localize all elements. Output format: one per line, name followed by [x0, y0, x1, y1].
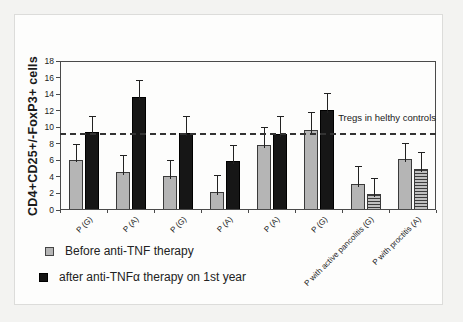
- y-axis-tick-label: 18: [28, 56, 54, 66]
- y-axis-tick-label: 0: [28, 205, 54, 215]
- y-axis-tick-label: 16: [28, 73, 54, 83]
- bar-after: [414, 169, 428, 210]
- y-axis-tick-label: 14: [28, 89, 54, 99]
- x-axis-category-label: P (A): [122, 215, 141, 234]
- reference-line-label: Tregs in helthy controls: [338, 112, 436, 123]
- bar-before: [116, 172, 130, 210]
- y-axis-tick-label: 6: [28, 155, 54, 165]
- x-axis-tick: [342, 210, 343, 213]
- error-bar: [264, 127, 265, 147]
- error-bar-cap: [183, 116, 190, 117]
- y-axis-tick: [56, 193, 60, 194]
- error-bar-cap: [136, 80, 143, 81]
- y-axis-tick: [56, 127, 60, 128]
- y-axis-tick: [56, 160, 60, 161]
- error-bar: [374, 178, 375, 198]
- error-bar: [139, 80, 140, 100]
- error-bar: [327, 93, 328, 113]
- y-axis-tick: [56, 94, 60, 95]
- legend-label-before: Before anti-TNF therapy: [65, 244, 194, 258]
- x-axis-tick: [389, 210, 390, 213]
- error-bar-cap: [89, 116, 96, 117]
- bar-before: [351, 184, 365, 210]
- bar-after: [320, 110, 334, 210]
- bar-before: [398, 159, 412, 210]
- y-axis-tick-label: 8: [28, 139, 54, 149]
- bar-before: [163, 176, 177, 210]
- y-axis-tick-label: 4: [28, 172, 54, 182]
- error-bar: [405, 143, 406, 162]
- x-axis-tick: [295, 210, 296, 213]
- error-bar: [233, 145, 234, 165]
- error-bar-cap: [167, 160, 174, 161]
- bar-after: [132, 97, 146, 210]
- error-bar-cap: [73, 144, 80, 145]
- after-therapy-swatch-icon: [39, 273, 48, 282]
- error-bar: [170, 160, 171, 180]
- bar-after: [226, 161, 240, 210]
- reference-dashed-line: [60, 133, 436, 135]
- y-axis-tick: [56, 61, 60, 62]
- x-axis-tick: [248, 210, 249, 213]
- error-bar-cap: [324, 93, 331, 94]
- x-axis-tick: [107, 210, 108, 213]
- error-bar-cap: [277, 116, 284, 117]
- bar-after: [85, 132, 99, 210]
- y-axis-tick-label: 2: [28, 188, 54, 198]
- error-bar: [76, 144, 77, 163]
- error-bar-cap: [214, 175, 221, 176]
- legend-item-after: after anti-TNFα therapy on 1st year: [39, 270, 246, 284]
- error-bar: [311, 112, 312, 132]
- y-axis-tick: [56, 110, 60, 111]
- error-bar-cap: [355, 166, 362, 167]
- x-axis-tick: [154, 210, 155, 213]
- x-axis-tick: [436, 210, 437, 213]
- bar-chart: CD4+CD25+/-FoxP3+ cells 024681012141618P…: [0, 0, 463, 322]
- bar-before: [257, 145, 271, 210]
- x-axis-tick: [201, 210, 202, 213]
- bar-after: [273, 134, 287, 210]
- error-bar-cap: [402, 143, 409, 144]
- x-axis-category-label: P (A): [216, 215, 235, 234]
- legend-label-after: after anti-TNFα therapy on 1st year: [59, 270, 246, 284]
- y-axis-tick: [56, 77, 60, 78]
- x-axis-category-label: P (G): [168, 215, 188, 235]
- x-axis-category-label: P (G): [74, 215, 94, 235]
- x-axis-category-label: P (G): [309, 215, 329, 235]
- error-bar-cap: [308, 112, 315, 113]
- bar-after: [179, 133, 193, 210]
- bar-before: [69, 160, 83, 210]
- error-bar-cap: [230, 145, 237, 146]
- error-bar: [421, 152, 422, 172]
- error-bar-cap: [120, 155, 127, 156]
- error-bar-cap: [371, 178, 378, 179]
- x-axis-tick: [60, 210, 61, 213]
- error-bar: [358, 166, 359, 186]
- error-bar-cap: [418, 152, 425, 153]
- before-therapy-swatch-icon: [45, 247, 54, 256]
- bar-before: [304, 130, 318, 210]
- y-axis-tick: [56, 176, 60, 177]
- y-axis-tick-label: 10: [28, 122, 54, 132]
- error-bar-cap: [261, 127, 268, 128]
- error-bar: [123, 155, 124, 175]
- error-bar: [217, 175, 218, 195]
- x-axis-category-label: P with proctitis (A): [371, 215, 423, 267]
- y-axis-tick: [56, 143, 60, 144]
- x-axis-category-label: P (A): [263, 215, 282, 234]
- legend-item-before: Before anti-TNF therapy: [45, 244, 194, 258]
- y-axis-tick-label: 12: [28, 106, 54, 116]
